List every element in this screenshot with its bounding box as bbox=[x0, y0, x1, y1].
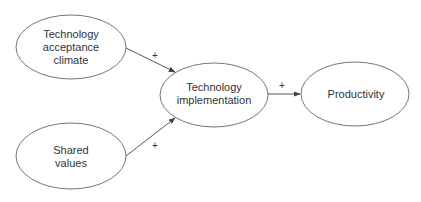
edge-tac-to-ti bbox=[126, 48, 175, 72]
sign-ti-to-prod: + bbox=[279, 80, 285, 91]
label-technology-implementation: Technology implementation bbox=[177, 81, 252, 107]
label-technology-acceptance-climate: Technology acceptance climate bbox=[43, 28, 99, 67]
label-productivity: Productivity bbox=[328, 88, 385, 101]
sign-sv-to-ti: + bbox=[152, 140, 158, 151]
edge-sv-to-ti bbox=[126, 118, 175, 156]
label-shared-values: Shared values bbox=[53, 144, 88, 170]
sign-tac-to-ti: + bbox=[152, 50, 158, 61]
